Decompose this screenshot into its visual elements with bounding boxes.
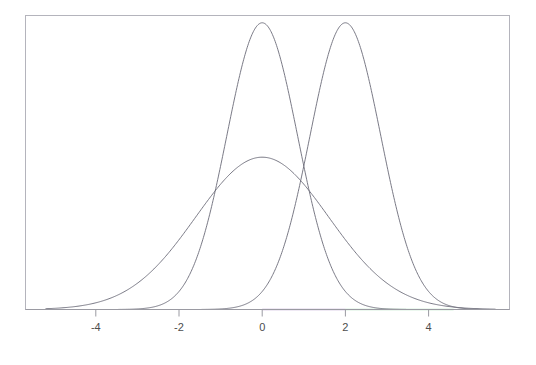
x-tick-label--4: -4 [91,321,101,333]
x-tick-label-0: 0 [259,321,265,333]
x-tick-label--2: -2 [174,321,184,333]
chart-figure: -4-2024 [0,0,536,365]
x-tick-label-4: 4 [426,321,432,333]
x-tick-label-2: 2 [342,321,348,333]
normal-distribution-plot: -4-2024 [0,0,536,365]
